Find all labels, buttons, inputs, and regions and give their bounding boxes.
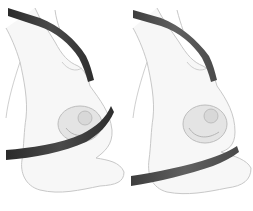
pregnant-woman-figure-right [127,0,253,211]
illustration-belt-under-belly [127,0,253,211]
pregnant-woman-figure-left [0,0,126,211]
illustration-belt-over-belly [0,0,126,211]
